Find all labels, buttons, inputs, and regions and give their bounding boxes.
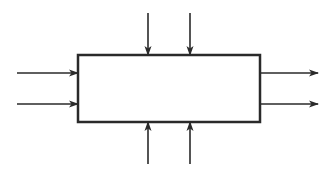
block-diagram xyxy=(0,0,333,189)
process-box xyxy=(78,55,260,122)
